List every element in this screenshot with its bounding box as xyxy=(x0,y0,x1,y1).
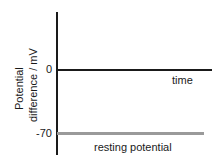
resting-potential-trace xyxy=(57,132,204,135)
resting-potential-chart: Potential difference / mV 0 -70 time res… xyxy=(0,0,219,164)
x-axis-line xyxy=(56,69,212,71)
resting-potential-label: resting potential xyxy=(94,141,172,154)
y-tick-label-neg70: -70 xyxy=(22,127,52,139)
y-axis-title-line-2: difference / mV xyxy=(27,48,39,122)
x-axis-title: time xyxy=(172,74,193,87)
y-axis-title-line-1: Potential xyxy=(13,67,25,110)
y-axis-title: Potential difference / mV xyxy=(0,0,44,164)
y-tick-label-zero: 0 xyxy=(30,63,52,75)
